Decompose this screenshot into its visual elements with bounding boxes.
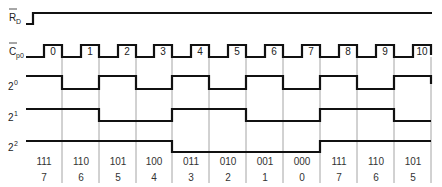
trace-2pow2	[26, 141, 431, 152]
svg-text:4: 4	[151, 172, 157, 183]
svg-text:0: 0	[50, 46, 56, 57]
signal-label-rd: R D	[9, 9, 21, 25]
svg-text:6: 6	[271, 46, 277, 57]
svg-text:011: 011	[183, 156, 199, 167]
svg-text:6: 6	[78, 172, 84, 183]
svg-text:3: 3	[160, 46, 166, 57]
svg-text:3: 3	[188, 172, 194, 183]
trace-2pow1	[26, 109, 431, 121]
svg-text:1: 1	[87, 46, 93, 57]
svg-text:p0: p0	[16, 52, 24, 60]
svg-text:8: 8	[345, 46, 351, 57]
svg-text:0: 0	[299, 172, 305, 183]
svg-text:5: 5	[115, 172, 121, 183]
clock-pulse-numbers: 0 1 2 3 4 5 6 7 8 9 10	[50, 46, 428, 57]
svg-text:010: 010	[220, 156, 237, 167]
svg-text:111: 111	[36, 156, 52, 167]
svg-text:100: 100	[146, 156, 163, 167]
svg-text:1: 1	[14, 110, 18, 117]
svg-text:7: 7	[308, 46, 314, 57]
svg-text:0: 0	[14, 79, 18, 86]
signal-label-2pow1: 2 1	[8, 110, 18, 123]
svg-text:2: 2	[225, 172, 231, 183]
trace-rd	[26, 13, 432, 24]
svg-text:2: 2	[124, 46, 130, 57]
svg-text:1: 1	[262, 172, 268, 183]
svg-text:111: 111	[331, 156, 347, 167]
svg-text:4: 4	[197, 46, 203, 57]
decimal-state-row: 7 6 5 4 3 2 1 0 7 6 5	[41, 172, 416, 183]
svg-text:5: 5	[234, 46, 240, 57]
svg-text:001: 001	[257, 156, 274, 167]
binary-state-row: 111 110 101 100 011 010 001 000 111 110 …	[36, 156, 421, 167]
svg-text:101: 101	[110, 156, 127, 167]
svg-text:000: 000	[294, 156, 311, 167]
svg-text:2: 2	[14, 140, 18, 147]
signal-label-2pow0: 2 0	[8, 79, 18, 92]
signal-label-cp0: C p0	[9, 43, 24, 60]
svg-text:7: 7	[41, 172, 47, 183]
svg-text:110: 110	[73, 156, 89, 167]
svg-text:D: D	[16, 18, 21, 25]
svg-text:6: 6	[373, 172, 379, 183]
trace-2pow0	[26, 76, 431, 89]
down-counter-timing-diagram: R D C p0 2 0 2 1 2 2 0 1 2 3 4 5 6 7 8 9…	[0, 0, 442, 187]
svg-text:101: 101	[405, 156, 422, 167]
svg-text:7: 7	[336, 172, 342, 183]
svg-text:10: 10	[416, 46, 428, 57]
svg-text:9: 9	[382, 46, 388, 57]
signal-label-2pow2: 2 2	[8, 140, 18, 153]
svg-text:110: 110	[368, 156, 384, 167]
svg-text:5: 5	[410, 172, 416, 183]
